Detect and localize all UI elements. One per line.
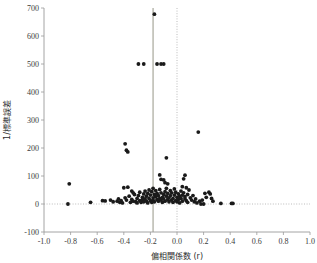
funnel-plot-figure: -1000100200300400500600700 -1.0-0.8-0.6-… xyxy=(0,0,317,263)
axis-labels-layer: 偏相関係数 (r) 1/標準誤差 xyxy=(0,0,317,263)
y-axis-title: 1/標準誤差 xyxy=(2,100,12,140)
x-axis-title: 偏相関係数 (r) xyxy=(151,251,203,261)
